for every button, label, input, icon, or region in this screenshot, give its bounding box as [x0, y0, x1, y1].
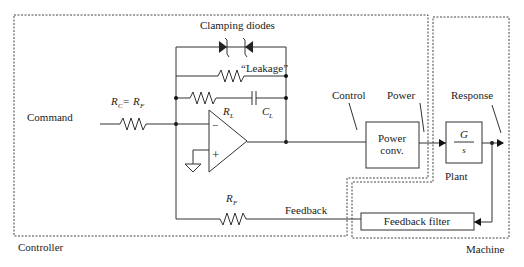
command-input-resistor	[100, 118, 209, 130]
junction-dot	[284, 96, 288, 100]
svg-text:R: R	[222, 105, 230, 117]
svg-text:L: L	[229, 112, 234, 120]
plant-label: Plant	[445, 170, 468, 182]
power-conv-line2: conv.	[380, 144, 404, 156]
plant-numerator: G	[460, 128, 468, 140]
svg-text:R: R	[110, 95, 118, 107]
feedback-resistor	[176, 213, 361, 225]
junction-dot	[284, 74, 288, 78]
cl-label: C L	[262, 105, 273, 120]
plant-denominator: s	[462, 145, 466, 155]
feedback-label: Feedback	[285, 204, 328, 216]
power-label: Power	[387, 89, 415, 101]
machine-label: Machine	[466, 243, 505, 255]
svg-text:R: R	[132, 95, 140, 107]
control-label: Control	[332, 89, 366, 101]
minus-sign: −	[212, 119, 218, 131]
command-label: Command	[27, 111, 73, 123]
svg-text:F: F	[139, 102, 145, 110]
clamping-diodes-label: Clamping diodes	[200, 19, 275, 31]
arrow-icon	[474, 218, 481, 226]
feedback-filter-label: Feedback filter	[384, 215, 451, 227]
svg-text:L: L	[268, 112, 273, 120]
rl-cl-branch	[176, 91, 286, 105]
svg-text:R: R	[225, 192, 233, 204]
control-leader	[349, 103, 357, 130]
rl-label: R L	[222, 105, 234, 120]
response-label: Response	[451, 89, 493, 101]
svg-text:F: F	[232, 199, 238, 207]
clamping-diodes	[176, 38, 286, 57]
power-conv-line1: Power	[378, 132, 406, 144]
arrow-icon	[497, 139, 504, 147]
svg-text:=: =	[123, 95, 129, 107]
rc-equals-rf-label: R C = R F	[110, 95, 145, 110]
junction-dot	[174, 96, 178, 100]
op-amp: − +	[185, 110, 247, 172]
servo-control-diagram: − + Power conv. G s Feedback filter Comm…	[0, 0, 524, 267]
leakage-label: “Leakage”	[241, 62, 288, 74]
response-leader	[492, 105, 501, 133]
power-leader	[420, 103, 424, 132]
controller-label: Controller	[18, 241, 64, 253]
rf-label: R F	[225, 192, 238, 207]
arrow-icon	[439, 139, 446, 147]
plus-sign: +	[212, 147, 219, 162]
